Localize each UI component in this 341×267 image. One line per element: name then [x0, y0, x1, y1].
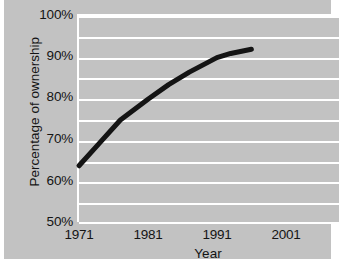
y-tick-label-90: 90%: [11, 49, 73, 63]
y-tick-label-80: 80%: [11, 90, 73, 104]
y-tick-label-60: 60%: [11, 174, 73, 188]
x-tick-label-1971: 1971: [64, 228, 93, 242]
x-axis-tick-labels: 1971 1981 1991 2001: [77, 228, 339, 246]
x-axis-title: Year: [77, 247, 339, 261]
top-edge-artifact: [7, 0, 33, 5]
plot-area: [77, 14, 339, 222]
x-tick-label-1981: 1981: [133, 228, 162, 242]
x-tick-label-2001: 2001: [271, 228, 300, 242]
y-tick-label-70: 70%: [11, 132, 73, 146]
y-tick-label-100: 100%: [11, 8, 73, 22]
data-series-line: [79, 16, 341, 224]
chart-canvas: Percentage of ownership 100% 90% 80% 70%…: [4, 0, 331, 259]
y-axis-tick-labels: 100% 90% 80% 70% 60% 50%: [7, 14, 73, 222]
x-tick-label-1991: 1991: [202, 228, 231, 242]
